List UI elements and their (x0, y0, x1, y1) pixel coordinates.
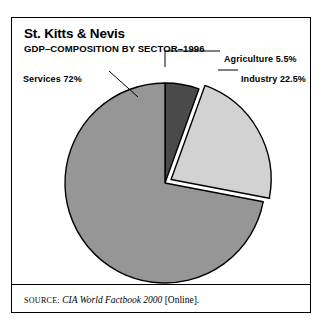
slice-label-industry: Industry 22.5% (241, 74, 306, 84)
source-prefix: SOURCE: (24, 296, 60, 305)
source-suffix: [Online]. (165, 295, 200, 305)
footer-divider (12, 284, 310, 286)
chart-frame: St. Kitts & Nevis GDP–COMPOSITION BY SEC… (11, 17, 311, 313)
source-note: SOURCE: CIA World Factbook 2000 [Online]… (24, 295, 199, 305)
leader-line-agriculture (165, 51, 220, 67)
pie-slices (65, 83, 271, 283)
source-title: CIA World Factbook 2000 (62, 295, 162, 305)
slice-label-agriculture: Agriculture 5.5% (224, 54, 297, 64)
slice-label-services: Services 72% (23, 74, 82, 84)
